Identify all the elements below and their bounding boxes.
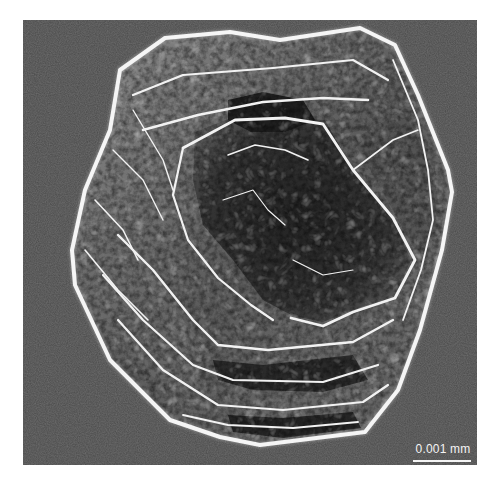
scale-bar: 0.001 mm [413,442,473,462]
scale-bar-line [413,460,471,462]
scale-bar-label: 0.001 mm [413,442,473,456]
crystal-micrograph [23,20,477,465]
micrograph-frame: 0.001 mm [23,20,477,465]
